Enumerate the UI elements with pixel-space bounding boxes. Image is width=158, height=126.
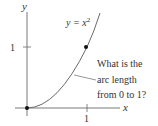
annotation-line-3: from 0 to 1? [97, 89, 147, 100]
parabola-curve [27, 13, 100, 108]
annotation-leader-line [74, 75, 96, 80]
function-label-text: y = x [65, 17, 87, 28]
point-one-one [84, 45, 88, 49]
arc-length-diagram: y x 1 1 y = x2 What is the arc length fr… [0, 0, 158, 126]
x-axis-label: x [122, 101, 128, 113]
y-axis-label: y [21, 0, 27, 12]
annotation-line-2: arc length [97, 74, 137, 85]
function-label-exponent: 2 [87, 16, 91, 24]
function-label: y = x2 [65, 16, 91, 28]
y-tick-label-1: 1 [10, 42, 15, 53]
x-tick-label-1: 1 [84, 113, 89, 124]
point-origin [25, 106, 29, 110]
annotation-line-1: What is the [97, 58, 143, 69]
